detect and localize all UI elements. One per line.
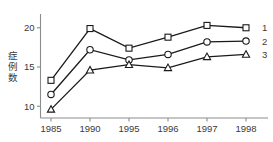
data-point-square-marker xyxy=(126,45,132,51)
legend-item-2: 2 xyxy=(262,36,267,47)
data-point-circle-marker xyxy=(204,39,210,45)
legend-label: 2 xyxy=(262,36,267,47)
data-point-circle-marker xyxy=(48,91,54,97)
x-tick-label: 1996 xyxy=(157,123,178,134)
y-axis-title-char: 例 xyxy=(8,61,18,72)
legend-label: 3 xyxy=(262,49,267,60)
y-tick-label: 20 xyxy=(24,22,35,33)
data-point-circle-marker xyxy=(243,38,249,44)
legend-item-3: 3 xyxy=(262,49,267,60)
chart-canvas: 101520 198519901995199619971998 123 症例数 xyxy=(0,0,273,142)
y-axis-title-char: 数 xyxy=(8,72,18,83)
data-point-circle-marker xyxy=(165,51,171,57)
legend-item-1: 1 xyxy=(262,22,267,33)
line-chart: 101520 198519901995199619971998 123 症例数 xyxy=(0,0,273,142)
data-point-square-marker xyxy=(165,34,171,40)
data-point-square-marker xyxy=(204,22,210,28)
y-axis-title: 症例数 xyxy=(8,50,18,83)
x-tick-label: 1985 xyxy=(40,123,61,134)
data-point-square-marker xyxy=(48,77,54,83)
legend-label: 1 xyxy=(262,22,267,33)
data-point-circle-marker xyxy=(87,47,93,53)
data-point-square-marker xyxy=(243,25,249,31)
x-tick-label: 1998 xyxy=(235,123,256,134)
x-tick-label: 1997 xyxy=(196,123,217,134)
y-tick-label: 15 xyxy=(24,61,35,72)
y-axis-title-char: 症 xyxy=(8,50,18,61)
x-tick-label: 1990 xyxy=(79,123,100,134)
data-point-square-marker xyxy=(87,26,93,32)
legend: 123 xyxy=(262,22,267,60)
x-tick-label: 1995 xyxy=(118,123,139,134)
y-tick-label: 10 xyxy=(24,101,35,112)
